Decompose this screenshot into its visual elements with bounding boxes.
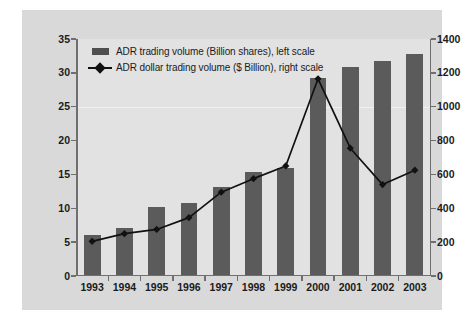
line-series-path (92, 79, 415, 242)
right-axis-tick-label: 200 (437, 237, 455, 248)
chart-legend: ADR trading volume (Billion shares), lef… (84, 44, 344, 76)
right-axis-tick (431, 38, 436, 40)
category-axis-label: 2001 (339, 282, 362, 293)
category-axis-label: 1993 (80, 282, 103, 293)
legend-entry-line: ADR dollar trading volume ($ Billion), r… (84, 60, 344, 75)
category-axis-tick (172, 276, 174, 281)
category-axis-label: 2000 (306, 282, 329, 293)
right-axis-tick (431, 140, 436, 142)
right-axis-tick-label: 1400 (437, 34, 460, 45)
left-axis-tick-label: 5 (64, 237, 70, 248)
category-axis-label: 1998 (242, 282, 265, 293)
category-axis-label: 1997 (210, 282, 233, 293)
category-axis-tick (301, 276, 303, 281)
category-axis-tick (398, 276, 400, 281)
line-series-markers (89, 75, 419, 245)
category-axis-label: 2003 (403, 282, 426, 293)
line-marker (153, 226, 160, 233)
right-axis-tick-label: 600 (437, 169, 455, 180)
right-axis-tick-label: 800 (437, 135, 455, 146)
right-axis-tick-label: 1200 (437, 67, 460, 78)
chart-figure: 05101520253035 0200400600800100012001400… (0, 0, 464, 321)
category-axis-tick (204, 276, 206, 281)
category-axis-tick (366, 276, 368, 281)
right-axis-tick (431, 174, 436, 176)
legend-entry-bar: ADR trading volume (Billion shares), lef… (84, 44, 344, 59)
right-axis-tick (431, 208, 436, 210)
right-axis-tick (431, 72, 436, 74)
left-axis-tick-label: 30 (58, 67, 70, 78)
category-axis-label: 1996 (177, 282, 200, 293)
left-axis-tick-label: 10 (58, 203, 70, 214)
category-axis-label: 1995 (145, 282, 168, 293)
right-axis-tick (431, 106, 436, 108)
right-axis-tick (431, 275, 436, 277)
category-axis-label: 1999 (274, 282, 297, 293)
line-diamond-swatch-icon (84, 63, 116, 72)
left-axis-tick-label: 15 (58, 169, 70, 180)
left-axis-tick-label: 0 (64, 271, 70, 282)
left-axis-tick-label: 35 (58, 34, 70, 45)
left-axis-tick-label: 25 (58, 101, 70, 112)
line-marker (411, 167, 418, 174)
category-axis-tick (333, 276, 335, 281)
legend-label-line: ADR dollar trading volume ($ Billion), r… (116, 62, 323, 73)
category-axis-tick (269, 276, 271, 281)
right-axis-tick (431, 241, 436, 243)
right-axis-tick-label: 0 (437, 271, 443, 282)
line-marker (314, 75, 321, 82)
category-axis-tick (108, 276, 110, 281)
line-marker (250, 175, 257, 182)
legend-label-bar: ADR trading volume (Billion shares), lef… (116, 46, 315, 57)
category-axis-label: 1994 (113, 282, 136, 293)
line-marker (121, 230, 128, 237)
left-axis-tick-label: 20 (58, 135, 70, 146)
line-marker (89, 238, 96, 245)
line-marker (282, 162, 289, 169)
right-axis-tick-label: 400 (437, 203, 455, 214)
category-axis-tick (237, 276, 239, 281)
bar-swatch-icon (84, 48, 116, 55)
category-axis-tick (140, 276, 142, 281)
right-axis-tick-label: 1000 (437, 101, 460, 112)
chart-panel: 05101520253035 0200400600800100012001400… (22, 10, 442, 310)
category-axis-label: 2002 (371, 282, 394, 293)
